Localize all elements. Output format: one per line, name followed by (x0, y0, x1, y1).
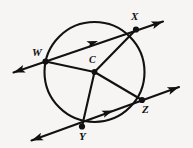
point-label-W: W (32, 47, 42, 58)
geometry-figure: W X C Z Y (0, 0, 193, 148)
segment-CZ (95, 72, 143, 100)
point-label-X: X (131, 11, 138, 22)
point-label-C: C (89, 55, 96, 65)
line-WX-arrowhead-end (151, 18, 164, 29)
line-YZ-arrowhead-end (167, 83, 181, 94)
segment-CW (46, 62, 95, 73)
line-YZ (30, 83, 180, 144)
line-YZ-mid-arrowhead (101, 107, 114, 118)
line-WX-arrowhead-start (12, 65, 25, 76)
point-dot-X (133, 26, 139, 32)
segment-CX (95, 30, 137, 73)
line-YZ-arrowhead-start (30, 133, 44, 144)
point-label-Y: Y (79, 131, 86, 142)
point-label-Z: Z (142, 104, 149, 115)
point-dot-Y (79, 123, 85, 129)
point-dot-W (42, 58, 48, 64)
point-dot-C (92, 69, 98, 75)
figure-canvas (0, 0, 193, 148)
